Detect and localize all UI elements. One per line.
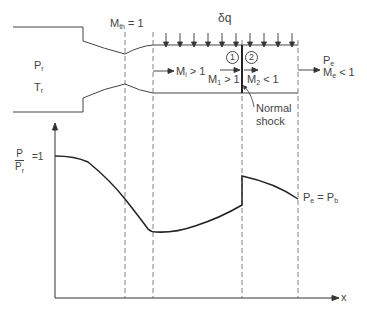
shock-leader-line [245, 87, 254, 107]
station-1-mach-label: M1 > 1 [208, 74, 240, 86]
x-axis-label: x [341, 292, 347, 303]
exit-mach-symbol: M [323, 66, 332, 78]
reservoir-pressure-sub: r [41, 65, 43, 72]
reservoir-temperature-label: Tr [34, 82, 43, 94]
y-label-den-sub: r [22, 167, 24, 174]
plot-axes [53, 123, 340, 301]
station-2-mach-value: < 1 [260, 73, 279, 85]
shock-label-line2: shock [256, 116, 285, 127]
exit-cond-eq: = [314, 191, 327, 203]
nozzle-diagram-graphic [0, 0, 367, 311]
station2-flow-arrow [244, 68, 258, 73]
throat-mach-symbol: M [110, 17, 119, 29]
station-2-marker: 2 [245, 51, 258, 64]
y-axis-fraction-label: P Pr [15, 148, 24, 177]
throat-mach-label: Mth = 1 [110, 18, 144, 30]
station-2-mach-symbol: M [247, 73, 256, 85]
duct-top-wall [13, 27, 298, 54]
station-dashed-lines [125, 32, 298, 298]
y-label-numerator: P [15, 148, 24, 161]
station-2-mach-label: M2 < 1 [247, 74, 279, 86]
inlet-mach-value: > 1 [187, 65, 206, 77]
exit-cond-s2: b [334, 197, 338, 204]
y-label-denominator: Pr [15, 161, 24, 177]
y-label-den-symbol: P [15, 161, 22, 172]
heat-addition-label: δq [218, 12, 231, 24]
station-1-marker: 1 [226, 51, 239, 64]
inlet-flow-arrow [153, 69, 174, 74]
y-axis-value-label: =1 [32, 152, 43, 162]
reservoir-pressure-label: Pr [34, 60, 44, 72]
inlet-mach-symbol: M [176, 65, 185, 77]
exit-mach-label: Me < 1 [323, 67, 355, 79]
inlet-mach-label: Mi > 1 [176, 66, 205, 78]
shock-label-line1: Normal [256, 103, 291, 114]
throat-mach-value: = 1 [125, 17, 144, 29]
station-1-mach-symbol: M [208, 73, 217, 85]
exit-condition-label: Pe = Pb [303, 192, 338, 204]
exit-mach-value: < 1 [336, 66, 355, 78]
pressure-curve [55, 156, 298, 232]
station-1-mach-value: > 1 [221, 73, 240, 85]
reservoir-temperature-symbol: T [34, 81, 41, 93]
station1-flow-arrow [220, 68, 240, 73]
reservoir-temperature-sub: r [41, 87, 43, 94]
exit-flow-arrow [298, 68, 320, 73]
